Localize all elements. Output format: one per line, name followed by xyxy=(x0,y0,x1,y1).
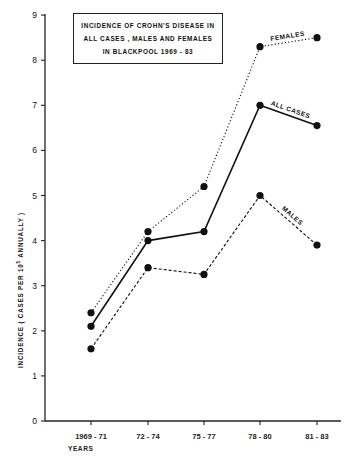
title-line-3: IN BLACKPOOL 1969 - 83 xyxy=(74,45,222,58)
x-tick-label: 78 - 80 xyxy=(248,432,271,441)
chart-title: INCIDENCE OF CROHN'S DISEASE IN ALL CASE… xyxy=(73,13,223,64)
data-point xyxy=(313,34,320,41)
data-point xyxy=(87,323,94,330)
y-tick-label: 7 xyxy=(32,100,37,110)
data-point xyxy=(144,228,151,235)
x-tick-label: 75 - 77 xyxy=(192,432,215,441)
data-point xyxy=(256,43,263,50)
line-chart: 01234567891969 - 7172 - 7475 - 7778 - 80… xyxy=(0,0,352,463)
y-tick-label: 9 xyxy=(32,10,37,20)
data-point xyxy=(87,345,94,352)
series-line-all-cases xyxy=(91,105,317,326)
data-point xyxy=(200,183,207,190)
data-point xyxy=(87,309,94,316)
title-line-2: ALL CASES , MALES AND FEMALES xyxy=(74,32,222,45)
data-point xyxy=(144,237,151,244)
data-point xyxy=(313,122,320,129)
data-point xyxy=(256,192,263,199)
x-tick-label: 72 - 74 xyxy=(136,432,160,441)
data-point xyxy=(200,228,207,235)
y-axis-label: INCIDENCE ( CASES PER 105 ANNUALLY ) xyxy=(16,212,24,368)
x-tick-label: 81 - 83 xyxy=(305,432,328,441)
y-tick-label: 8 xyxy=(32,55,37,65)
y-tick-label: 3 xyxy=(32,281,37,291)
series-label-females: FEMALES xyxy=(270,30,305,42)
y-tick-label: 2 xyxy=(32,326,37,336)
y-tick-label: 0 xyxy=(32,416,37,426)
data-point xyxy=(313,242,320,249)
y-tick-label: 1 xyxy=(32,371,37,381)
x-axis-label: YEARS xyxy=(68,445,93,452)
data-point xyxy=(256,102,263,109)
y-tick-label: 4 xyxy=(32,236,37,246)
series-label-males: MALES xyxy=(281,204,305,226)
data-point xyxy=(200,271,207,278)
y-tick-label: 5 xyxy=(32,191,37,201)
y-tick-label: 6 xyxy=(32,145,37,155)
data-point xyxy=(144,264,151,271)
x-tick-label: 1969 - 71 xyxy=(75,432,107,441)
title-line-1: INCIDENCE OF CROHN'S DISEASE IN xyxy=(74,19,222,32)
